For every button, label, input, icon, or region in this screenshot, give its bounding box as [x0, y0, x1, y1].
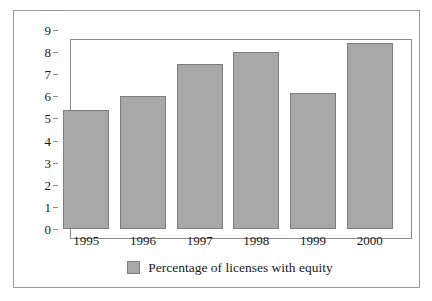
y-axis-tick-label-7: 7 [21, 68, 51, 81]
y-axis: 9876543210199519961997199819992000 [14, 11, 432, 301]
legend-label: Percentage of licenses with equity [148, 261, 332, 275]
x-axis-tick-label-2000: 2000 [340, 234, 400, 247]
figure-outer-border: 9876543210199519961997199819992000 Perce… [13, 10, 420, 288]
x-axis-tick-label-1999: 1999 [283, 234, 343, 247]
y-axis-tick-mark-2 [53, 185, 58, 186]
legend-swatch-percentage-of-licenses-with-equity [127, 261, 140, 274]
y-axis-tick-label-6: 6 [21, 90, 51, 103]
y-axis-tick-label-8: 8 [21, 46, 51, 59]
x-axis-tick-label-1998: 1998 [226, 234, 286, 247]
y-axis-tick-label-9: 9 [21, 24, 51, 37]
y-axis-tick-label-2: 2 [21, 179, 51, 192]
y-axis-tick-label-0: 0 [21, 223, 51, 236]
x-axis-tick-label-1997: 1997 [170, 234, 230, 247]
y-axis-tick-mark-1 [53, 207, 58, 208]
y-axis-tick-mark-3 [53, 163, 58, 164]
x-axis-tick-label-1995: 1995 [56, 234, 116, 247]
y-axis-tick-mark-6 [53, 96, 58, 97]
x-axis-tick-label-1996: 1996 [113, 234, 173, 247]
y-axis-tick-label-1: 1 [21, 201, 51, 214]
y-axis-tick-label-3: 3 [21, 157, 51, 170]
y-axis-tick-mark-4 [53, 141, 58, 142]
y-axis-tick-mark-0 [53, 229, 58, 230]
y-axis-tick-label-5: 5 [21, 112, 51, 125]
y-axis-tick-label-4: 4 [21, 135, 51, 148]
y-axis-tick-mark-5 [53, 118, 58, 119]
chart-legend: Percentage of licenses with equity [14, 261, 432, 275]
y-axis-tick-mark-9 [53, 30, 58, 31]
y-axis-tick-mark-7 [53, 74, 58, 75]
y-axis-tick-mark-8 [53, 52, 58, 53]
bar-chart-figure: 9876543210199519961997199819992000 Perce… [0, 0, 432, 301]
